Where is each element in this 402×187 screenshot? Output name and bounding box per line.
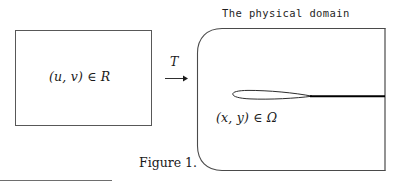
figure-caption: Figure 1.	[139, 155, 197, 170]
figure-container: The physical domain (u, v) ∈ R T (x, y) …	[0, 0, 402, 187]
physical-domain-title: The physical domain	[222, 7, 350, 19]
mapping-label-t: T	[170, 54, 178, 69]
physical-domain-label: (x, y) ∈ Ω	[216, 110, 277, 125]
mapping-arrow	[165, 76, 188, 82]
physical-domain-boundary	[198, 29, 386, 171]
computational-domain-label: (u, v) ∈ R	[49, 69, 110, 84]
figure-graphics	[0, 0, 402, 187]
right-arrow-icon-head	[183, 76, 188, 82]
